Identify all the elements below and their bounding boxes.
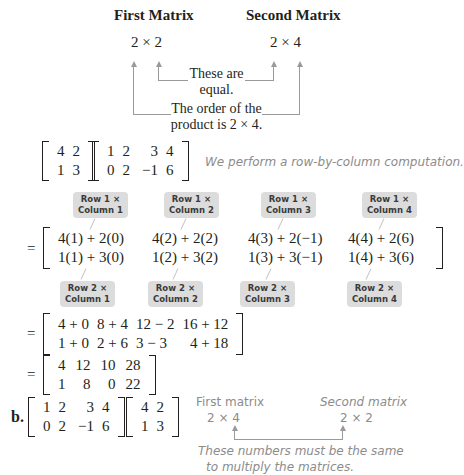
- cell: 3: [69, 161, 85, 180]
- callout-row1-col1: Row 1 × Column 1: [73, 192, 128, 218]
- cell: 1: [103, 142, 119, 161]
- callout-row1-col4: Row 1 × Column 4: [362, 192, 417, 218]
- matrix-b-right: 4 2 1 3: [126, 397, 179, 437]
- order-note: The order of the product is 2 × 4.: [170, 101, 263, 133]
- same-number-note: These numbers must be the same to multip…: [198, 443, 362, 475]
- callout-row2-col1: Row 2 × Column 1: [60, 281, 115, 307]
- equals-sign: =: [27, 325, 35, 342]
- order-note-line2: product is 2 × 4.: [170, 117, 263, 133]
- cell: 0: [39, 417, 55, 436]
- cell: 2: [69, 142, 85, 161]
- cell: −1: [134, 161, 162, 180]
- result-matrix: 4 12 10 28 1 8 0 22: [43, 355, 156, 395]
- callout-row2-col3: Row 2 × Column 3: [240, 281, 295, 307]
- first-matrix-note-dim: 2 × 4: [207, 411, 240, 425]
- cell: −1: [70, 417, 98, 436]
- cell: 4: [53, 142, 69, 161]
- cell: 1: [39, 398, 55, 417]
- first-matrix-label: First Matrix: [114, 7, 194, 24]
- cell: 2: [119, 161, 135, 180]
- callout-row1-col3: Row 1 × Column 3: [261, 192, 316, 218]
- callout-line: Row 2 ×: [65, 283, 110, 294]
- second-matrix-dimension: 2 × 4: [270, 34, 301, 51]
- cell: 6: [162, 161, 178, 180]
- cell: 0: [97, 375, 120, 394]
- cell: 4: [54, 356, 70, 375]
- matrix-a-right: 1 2 3 4 0 2 −1 6: [92, 141, 189, 181]
- equal-note-line2: equal.: [188, 82, 245, 98]
- cell: 1: [53, 161, 69, 180]
- cell: 4 + 0: [54, 315, 93, 334]
- note-line: to multiply the matrices.: [198, 459, 362, 475]
- first-matrix-note-label: First matrix: [196, 395, 264, 409]
- cell: 6: [98, 417, 114, 436]
- arrow-up-icon: [297, 61, 303, 67]
- cell: 0: [103, 161, 119, 180]
- cell: 2 + 6: [93, 334, 132, 353]
- cell: 28: [122, 356, 145, 375]
- callout-line: Row 1 ×: [78, 194, 123, 205]
- cell: 3 − 3: [132, 334, 178, 353]
- cell: 8 + 4: [93, 315, 132, 334]
- second-matrix-note-dim: 2 × 2: [340, 411, 373, 425]
- cell: 16 + 12: [178, 315, 232, 334]
- callout-line: Column 3: [245, 294, 290, 305]
- callout-line: Row 1 ×: [266, 194, 311, 205]
- cell: 22: [122, 375, 145, 394]
- callout-line: Column 2: [169, 205, 214, 216]
- arrow-up-icon: [156, 61, 162, 67]
- arrow-up-icon: [271, 61, 277, 67]
- matrix-a-left: 4 2 1 3: [42, 141, 95, 181]
- cell: 4(3) + 2(−1): [244, 229, 344, 248]
- cell: 4(2) + 2(2): [148, 229, 244, 248]
- cell: 2: [55, 398, 71, 417]
- cell: 4(4) + 2(6): [344, 229, 432, 248]
- cell: 1: [137, 417, 153, 436]
- first-matrix-dimension: 2 × 2: [131, 34, 162, 51]
- cell: 3: [134, 142, 162, 161]
- cell: 3: [70, 398, 98, 417]
- callout-line: Row 1 ×: [169, 194, 214, 205]
- callout-line: Row 2 ×: [245, 283, 290, 294]
- cell: 2: [55, 417, 71, 436]
- cell: 12 − 2: [132, 315, 178, 334]
- equals-sign: =: [27, 240, 35, 257]
- cell: 1(3) + 3(−1): [244, 248, 344, 267]
- equal-note-line1: These are: [188, 66, 245, 82]
- callout-line: Column 1: [65, 294, 110, 305]
- cell: 4: [162, 142, 178, 161]
- cell: 2: [119, 142, 135, 161]
- step2-matrix: 4 + 0 8 + 4 12 − 2 16 + 12 1 + 0 2 + 6 3…: [43, 313, 243, 355]
- second-matrix-label: Second Matrix: [246, 7, 341, 24]
- callout-row1-col2: Row 1 × Column 2: [164, 192, 219, 218]
- arrow-up-icon: [340, 425, 346, 431]
- callout-line: Column 2: [153, 294, 198, 305]
- callout-line: Row 2 ×: [352, 283, 397, 294]
- cell: 1(2) + 3(2): [148, 248, 244, 267]
- note-line: These numbers must be the same: [198, 443, 362, 459]
- equal-note: These are equal.: [188, 66, 245, 98]
- matrix-b-left: 1 2 3 4 0 2 −1 6: [28, 397, 125, 437]
- cell: 1(4) + 3(6): [344, 248, 432, 267]
- cell: 4(1) + 2(0): [54, 229, 148, 248]
- cell: 2: [153, 398, 169, 417]
- cell: 4 + 18: [178, 334, 232, 353]
- cell: 1(1) + 3(0): [54, 248, 148, 267]
- callout-line: Column 1: [78, 205, 123, 216]
- callout-line: Column 3: [266, 205, 311, 216]
- cell: 10: [97, 356, 120, 375]
- arrow-up-icon: [131, 61, 137, 67]
- step1-matrix: 4(1) + 2(0) 4(2) + 2(2) 4(3) + 2(−1) 4(4…: [43, 227, 443, 269]
- cell: 3: [153, 417, 169, 436]
- cell: 8: [72, 375, 95, 394]
- callout-line: Row 1 ×: [367, 194, 412, 205]
- cell: 1 + 0: [54, 334, 93, 353]
- computation-comment: We perform a row-by-column computation.: [205, 155, 464, 169]
- cell: 4: [137, 398, 153, 417]
- callout-line: Column 4: [367, 205, 412, 216]
- callout-row2-col2: Row 2 × Column 2: [148, 281, 203, 307]
- callout-line: Column 4: [352, 294, 397, 305]
- callout-row2-col4: Row 2 × Column 4: [347, 281, 402, 307]
- part-b-label: b.: [11, 408, 24, 426]
- cell: 1: [54, 375, 70, 394]
